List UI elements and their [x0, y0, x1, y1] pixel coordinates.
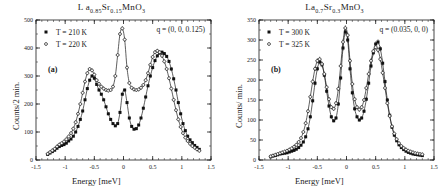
- q-annotation: q = (0.035, 0, 0): [379, 25, 428, 34]
- legend-item-label: T = 325 K: [279, 40, 311, 49]
- panel-a-plot: -1.5-1-0.500.511.50100200300400500T = 21…: [0, 0, 223, 194]
- x-tick-label: 1: [180, 164, 183, 170]
- x-tick-label: -1: [63, 164, 68, 170]
- y-tick-label: 500: [24, 17, 33, 23]
- y-tick-label: 200: [247, 77, 256, 83]
- x-tick-label: -1: [286, 164, 291, 170]
- x-tick-label: 0: [345, 164, 348, 170]
- data-series: [46, 51, 201, 156]
- x-tick-label: 1: [403, 164, 406, 170]
- panel-b: La0.7Sr0.3MnO3 -1.5-1-0.500.511.50501001…: [223, 0, 446, 194]
- x-tick-label: 0: [122, 164, 125, 170]
- y-tick-label: 0: [30, 157, 33, 163]
- x-tick-label: -0.5: [90, 164, 100, 170]
- legend-item-label: T = 220 K: [56, 40, 88, 49]
- legend-item-label: T = 210 K: [56, 28, 88, 37]
- x-tick-label: -1.5: [31, 164, 41, 170]
- x-tick-label: 0.5: [149, 164, 157, 170]
- figure-container: L a0.85Sr0.15MnO3 -1.5-1-0.500.511.50100…: [0, 0, 447, 194]
- panel-a-ylabel: Counts/2 min.: [11, 82, 21, 130]
- y-tick-label: 150: [247, 97, 256, 103]
- panel-b-xlabel: Energy [meV]: [295, 176, 344, 186]
- y-tick-label: 300: [24, 73, 33, 79]
- x-tick-label: -1.5: [254, 164, 264, 170]
- y-tick-label: 0: [253, 157, 256, 163]
- y-tick-label: 200: [24, 101, 33, 107]
- fit-curve: [271, 32, 423, 157]
- panel-label: (a): [48, 65, 58, 74]
- x-tick-label: 1.5: [207, 164, 215, 170]
- y-tick-label: 400: [24, 45, 33, 51]
- y-tick-label: 100: [247, 117, 256, 123]
- y-tick-label: 100: [24, 129, 33, 135]
- panel-label: (b): [271, 65, 281, 74]
- y-tick-label: 50: [250, 137, 256, 143]
- legend-item-label: T = 300 K: [279, 28, 311, 37]
- panel-a-xlabel: Energy [meV]: [72, 176, 121, 186]
- q-annotation: q = (0, 0, 0.125): [156, 25, 205, 34]
- y-tick-label: 350: [247, 17, 256, 23]
- y-tick-label: 300: [247, 37, 256, 43]
- panel-b-ylabel: Counts/ min.: [234, 84, 244, 128]
- x-tick-label: 0.5: [372, 164, 380, 170]
- x-tick-label: -0.5: [313, 164, 323, 170]
- panel-a: L a0.85Sr0.15MnO3 -1.5-1-0.500.511.50100…: [0, 0, 223, 194]
- y-tick-label: 250: [247, 57, 256, 63]
- panel-b-plot: -1.5-1-0.500.511.5050100150200250300350T…: [223, 0, 446, 194]
- x-tick-label: 1.5: [430, 164, 438, 170]
